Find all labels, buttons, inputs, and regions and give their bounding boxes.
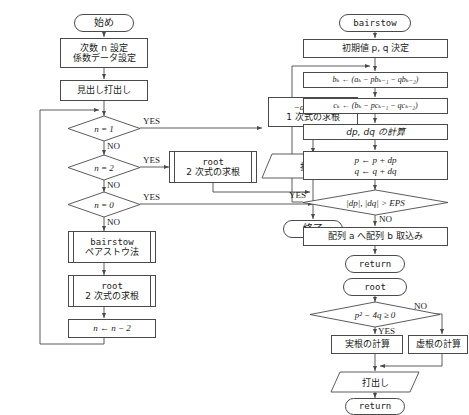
bairstow-return-label: return	[359, 259, 392, 269]
real-roots-label: 実根の計算	[345, 339, 390, 349]
decrement-label: n ← n − 2	[93, 323, 131, 333]
bairstow-calc-dpdq-process: dp, dq の計算	[303, 124, 448, 140]
flowchart-canvas: 始め 次数 n 設定 係数データ設定 見出し打出し n = 1 YES NO n…	[0, 0, 469, 415]
bairstow-call-line1: bairstow	[90, 237, 133, 247]
bairstow-call-line2: ペアストウ法	[85, 247, 139, 257]
decision-n0-label: n = 0	[94, 200, 114, 210]
decision-n1: n = 1	[68, 116, 140, 141]
bairstow-formula-c-process: cₖ ← (bₖ − pcₖ₋₁ − qcₖ₋₂)	[303, 98, 448, 114]
decrement-process: n ← n − 2	[68, 319, 156, 338]
n1-no-label: NO	[107, 141, 120, 151]
root-call-line1: root	[202, 157, 224, 167]
decision-n2: n = 2	[68, 155, 140, 180]
bairstow-formula-b-process: bₖ ← (aₖ − pbₖ₋₁ − qbₖ₋₂)	[303, 72, 448, 88]
decision-n0: n = 0	[68, 192, 140, 217]
decision-n1-label: n = 1	[94, 124, 114, 134]
setup-line2: 係数データ設定	[73, 53, 136, 63]
bairstow-update-q: q ← q + dq	[354, 166, 396, 176]
bairstow-formula-c-label: cₖ ← (bₖ − pcₖ₋₁ − qcₖ₋₂)	[333, 101, 417, 110]
root-call2-line2: 2 次式の求根	[85, 291, 139, 301]
bairstow-copy-array-label: 配列 a へ配列 b 取込み	[328, 231, 423, 241]
root-no-label: NO	[414, 301, 427, 311]
n0-yes-label: YES	[143, 192, 160, 202]
bairstow-start-terminator: bairstow	[339, 14, 411, 32]
root-return-terminator: return	[345, 398, 405, 415]
bairstow-init-process: 初期値 p, q 決定	[303, 39, 448, 58]
bairstow-condition-label: |dp|, |dq| > EPS	[346, 198, 404, 208]
root-return-label: return	[359, 401, 392, 411]
bairstow-condition-decision: |dp|, |dq| > EPS	[303, 190, 448, 215]
header-print-label: 見出し打出し	[77, 85, 131, 95]
imaginary-roots-label: 虚根の計算	[416, 339, 461, 349]
bairstow-update-process: p ← p + dp q ← q + dq	[303, 151, 448, 180]
n1-yes-label: YES	[143, 116, 160, 126]
n2-no-label: NO	[107, 180, 120, 190]
header-print-process: 見出し打出し	[60, 80, 148, 101]
root-print-io: 打出し	[331, 372, 419, 392]
bairstow-start-label: bairstow	[353, 18, 396, 28]
bairstow-copy-array-process: 配列 a へ配列 b 取込み	[303, 227, 448, 246]
decision-n2-label: n = 2	[94, 163, 114, 173]
setup-process: 次数 n 設定 係数データ設定	[60, 38, 148, 68]
root-call-line2: 2 次式の求根	[186, 167, 240, 177]
bairstow-init-label: 初期値 p, q 決定	[342, 43, 410, 53]
n0-no-label: NO	[107, 217, 120, 227]
bairstow-calc-dpdq-label: dp, dq の計算	[346, 127, 404, 137]
root-discriminant-label: p² − 4q ≥ 0	[355, 310, 396, 320]
root-start-terminator: root	[343, 278, 407, 296]
bairstow-update-p: p ← p + dp	[354, 155, 396, 165]
root-subroutine-call-1: root 2 次式の求根	[169, 151, 257, 183]
bairstow-formula-b-label: bₖ ← (aₖ − pbₖ₋₁ − qbₖ₋₂)	[333, 75, 419, 84]
bairstow-return-terminator: return	[345, 255, 405, 273]
bairstow-yes-label: YES	[289, 190, 306, 200]
setup-line1: 次数 n 設定	[80, 43, 127, 53]
root-start-label: root	[364, 282, 386, 292]
root-subroutine-call-2: root 2 次式の求根	[68, 275, 156, 307]
n2-yes-label: YES	[143, 155, 160, 165]
root-call2-line1: root	[101, 281, 123, 291]
real-roots-process: 実根の計算	[331, 335, 403, 354]
imaginary-roots-process: 虚根の計算	[408, 335, 468, 354]
main-start-label: 始め	[94, 17, 114, 29]
bairstow-subroutine-call: bairstow ペアストウ法	[68, 231, 156, 263]
main-start-terminator: 始め	[74, 14, 134, 32]
bairstow-no-label: NO	[379, 214, 392, 224]
root-print-label: 打出し	[362, 376, 389, 389]
